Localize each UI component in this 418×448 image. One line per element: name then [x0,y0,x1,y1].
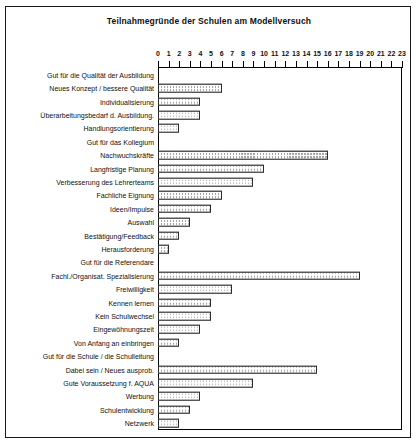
bar [158,218,190,227]
category-label: Freiwilligkeit [116,286,154,293]
bar [158,365,317,374]
bar-row: Gute Voraussetzung f. AQUA [0,376,418,389]
chart-title: Teilnahmegründe der Schulen am Modellver… [0,16,418,26]
x-tick-label: 6 [220,50,224,57]
x-tick-label: 5 [209,50,213,57]
bar-row: Freiwilligkeit [0,283,418,296]
bar-row: Netzwerk [0,417,418,430]
bar [158,325,200,334]
category-label: Kein Schulwechsel [95,313,154,320]
x-tick-label: 4 [198,50,202,57]
bar [158,312,211,321]
bar-row: Verbesserung des Lehrerteams [0,175,418,188]
bar-row: Herausforderung [0,242,418,255]
bar [158,339,179,348]
category-label: Schulentwicklung [100,406,154,413]
bar-row: Überarbeitungsbedarf d. Ausbildung. [0,108,418,121]
x-tick-label: 10 [260,50,268,57]
category-label: Verbesserung des Lehrerteams [56,178,154,185]
bar [158,272,360,281]
category-label: Dabei sein / Neues ausprob. [66,366,154,373]
bar [158,97,200,106]
bar-row: Langfristige Planung [0,162,418,175]
bar [158,245,169,254]
bar-row: Auswahl [0,215,418,228]
category-label: Gute Voraussetzung f. AQUA [63,380,154,387]
bar-row: Dabei sein / Neues ausprob. [0,363,418,376]
bar [158,406,190,415]
category-label: Herausforderung [101,245,154,252]
bar-row: Bestätigung/Feedback [0,229,418,242]
category-label: Eingewöhnungszeit [93,326,154,333]
category-label: Langfristige Planung [90,165,154,172]
x-tick-label: 0 [156,50,160,57]
category-label: Neues Konzept / bessere Qualität [49,85,154,92]
category-label: Handlungsorientierung [84,125,154,132]
x-tick-label: 1 [167,50,171,57]
x-tick-label: 8 [241,50,245,57]
bar-row: Individualisierung [0,95,418,108]
bar-rows: Gut für die Qualität der AusbildungNeues… [0,68,418,430]
bar [158,379,253,388]
x-tick-label: 23 [398,50,406,57]
x-tick-label: 17 [334,50,342,57]
bar-row: Eingewöhnungszeit [0,323,418,336]
x-tick-label: 21 [377,50,385,57]
category-label: Individualisierung [100,98,154,105]
x-tick-label: 3 [188,50,192,57]
bar [158,84,222,93]
category-label: Bestätigung/Feedback [84,232,154,239]
category-label: Gut für die Schule / die Schulleitung [43,353,154,360]
bar-row: Nachwuchskräfte [0,148,418,161]
x-tick-label: 14 [303,50,311,57]
bar-row: Gut für die Qualität der Ausbildung [0,68,418,81]
bar-row: Neues Konzept / bessere Qualität [0,81,418,94]
bar-row: Kein Schulwechsel [0,309,418,322]
bar [158,285,232,294]
category-label: Fachliche Eignung [96,192,154,199]
bar [158,392,200,401]
bar [158,231,179,240]
category-label: Nachwuchskräfte [100,152,154,159]
x-tick-label: 9 [252,50,256,57]
bar-row: Gut für das Kollegium [0,135,418,148]
x-tick-label: 2 [177,50,181,57]
category-label: Fachl./Organisat. Spezialisierung [51,272,154,279]
category-label: Werbung [126,393,154,400]
x-tick-label: 11 [271,50,278,57]
bar [158,124,179,133]
x-tick-label: 7 [230,50,234,57]
bar-row: Gut für die Schule / die Schulleitung [0,350,418,363]
x-tick-label: 12 [281,50,289,57]
bar [158,298,211,307]
x-tick-label: 13 [292,50,300,57]
bar-row: Gut für die Referendare [0,256,418,269]
bar-row: Schulentwicklung [0,403,418,416]
bar-row: Werbung [0,390,418,403]
bar [158,111,200,120]
category-label: Gut für die Qualität der Ausbildung [47,71,154,78]
bar [158,178,253,187]
category-label: Von Anfang an einbringen [74,339,154,346]
bar-row: Fachl./Organisat. Spezialisierung [0,269,418,282]
category-label: Netzwerk [125,420,154,427]
x-tick-label: 22 [387,50,395,57]
x-tick-label: 19 [356,50,364,57]
bar [158,151,328,160]
bar-row: Handlungsorientierung [0,122,418,135]
x-tick-label: 16 [324,50,332,57]
category-label: Gut für das Kollegium [87,138,154,145]
bar [158,419,179,428]
category-label: Ideen/Impulse [110,205,154,212]
category-label: Kennen lernen [108,299,154,306]
x-tick-label: 15 [313,50,321,57]
bar-row: Ideen/Impulse [0,202,418,215]
category-label: Auswahl [128,219,154,226]
bar [158,204,211,213]
bar [158,191,222,200]
category-label: Gut für die Referendare [80,259,154,266]
x-tick-label: 20 [366,50,374,57]
category-label: Überarbeitungsbedarf d. Ausbildung. [40,111,154,118]
x-axis-tick-labels: 01234567891011121314151617181920212223 [158,50,403,61]
bar-row: Von Anfang an einbringen [0,336,418,349]
